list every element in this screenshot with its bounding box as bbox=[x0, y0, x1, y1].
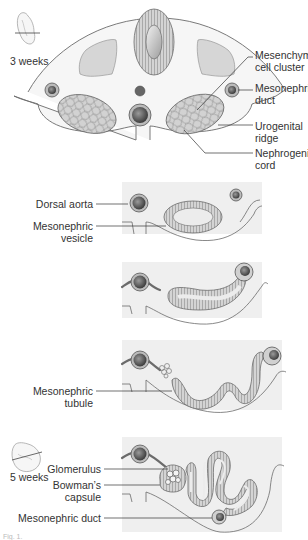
figure-caption: Fig. 1. bbox=[3, 533, 23, 540]
stage-5-mature-tubule: 5 weeks Glomerulus Bowman’s capsule Meso… bbox=[10, 437, 284, 532]
label-mesonephric-tubule: Mesonephric bbox=[33, 385, 93, 397]
svg-text:capsule: capsule bbox=[65, 491, 101, 503]
label-mesonephric-duct-5: Mesonephric duct bbox=[18, 512, 101, 524]
label-mesonephric-vesicle: Mesonephric bbox=[33, 220, 93, 232]
stage-2-vesicle: Dorsal aorta Mesonephric vesicle bbox=[33, 182, 262, 244]
label-mesenchymal-cell-cluster: Mesenchymal bbox=[255, 49, 308, 61]
label-bowmans-capsule: Bowman’s bbox=[53, 479, 101, 491]
label-nephrogenic-cord: Nephrogenic bbox=[255, 147, 308, 159]
stage-1-cross-section: 3 weeks Mesenchymal cell cluster bbox=[10, 9, 308, 171]
age-label-5-weeks: 5 weeks bbox=[10, 471, 49, 483]
mesonephros-development-diagram: 3 weeks Mesenchymal cell cluster bbox=[0, 0, 308, 540]
stage-3-elongating-tubule bbox=[122, 262, 268, 324]
svg-text:cord: cord bbox=[255, 159, 276, 171]
svg-text:tubule: tubule bbox=[64, 397, 93, 409]
label-urogenital-ridge: Urogenital bbox=[255, 120, 303, 132]
label-mesonephric-duct: Mesonephric bbox=[255, 82, 308, 94]
stage-4-mesonephric-tubule: Mesonephric tubule bbox=[33, 340, 286, 412]
label-dorsal-aorta: Dorsal aorta bbox=[36, 198, 93, 210]
embryo-3-weeks-icon bbox=[15, 13, 40, 44]
embryo-5-weeks-icon bbox=[12, 443, 42, 472]
label-glomerulus: Glomerulus bbox=[47, 463, 101, 475]
svg-text:vesicle: vesicle bbox=[61, 232, 93, 244]
svg-text:cell cluster: cell cluster bbox=[255, 61, 305, 73]
notochord bbox=[135, 86, 145, 96]
svg-text:duct: duct bbox=[255, 94, 275, 106]
svg-text:ridge: ridge bbox=[255, 132, 279, 144]
age-label-3-weeks: 3 weeks bbox=[10, 55, 49, 67]
